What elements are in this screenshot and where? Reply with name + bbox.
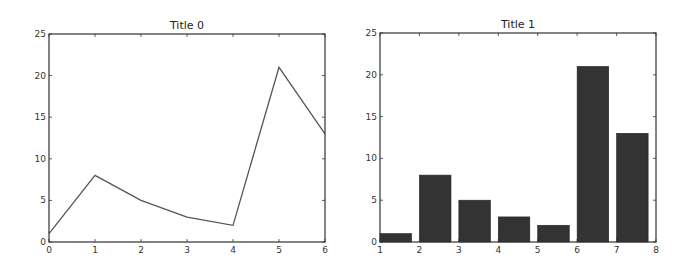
y-tick-label: 10 bbox=[35, 154, 47, 164]
y-tick-label: 5 bbox=[40, 195, 46, 205]
x-tick-label: 1 bbox=[92, 245, 98, 255]
axes-frame bbox=[49, 34, 325, 242]
y-tick-label: 5 bbox=[371, 195, 377, 205]
y-tick-label: 10 bbox=[366, 153, 378, 163]
bar bbox=[617, 133, 649, 242]
bar bbox=[380, 234, 412, 242]
subplot-0: 05101520250123456Title 0 bbox=[35, 19, 329, 255]
y-tick-label: 20 bbox=[366, 70, 378, 80]
subplot-1: 051015202512345678Title 1 bbox=[366, 18, 660, 255]
chart-title: Title 0 bbox=[169, 19, 204, 32]
bar bbox=[538, 225, 570, 242]
x-tick-label: 3 bbox=[456, 245, 462, 255]
x-tick-label: 7 bbox=[614, 245, 620, 255]
x-tick-label: 5 bbox=[276, 245, 282, 255]
x-tick-label: 1 bbox=[377, 245, 383, 255]
x-tick-label: 5 bbox=[535, 245, 541, 255]
x-tick-label: 4 bbox=[495, 245, 501, 255]
x-tick-label: 6 bbox=[574, 245, 580, 255]
y-tick-label: 25 bbox=[366, 28, 377, 38]
bar bbox=[577, 66, 609, 242]
y-tick-label: 20 bbox=[35, 71, 47, 81]
bar bbox=[498, 217, 530, 242]
x-tick-label: 2 bbox=[417, 245, 423, 255]
bar bbox=[459, 200, 491, 242]
x-tick-label: 3 bbox=[184, 245, 190, 255]
x-tick-label: 0 bbox=[46, 245, 52, 255]
x-tick-label: 6 bbox=[322, 245, 328, 255]
x-tick-label: 8 bbox=[653, 245, 659, 255]
y-tick-label: 15 bbox=[366, 112, 377, 122]
y-tick-label: 25 bbox=[35, 29, 46, 39]
x-tick-label: 2 bbox=[138, 245, 144, 255]
line-series bbox=[49, 67, 325, 233]
chart-title: Title 1 bbox=[500, 18, 535, 31]
figure: 05101520250123456Title 00510152025123456… bbox=[0, 0, 691, 268]
bar bbox=[419, 175, 451, 242]
x-tick-label: 4 bbox=[230, 245, 236, 255]
y-tick-label: 15 bbox=[35, 112, 46, 122]
